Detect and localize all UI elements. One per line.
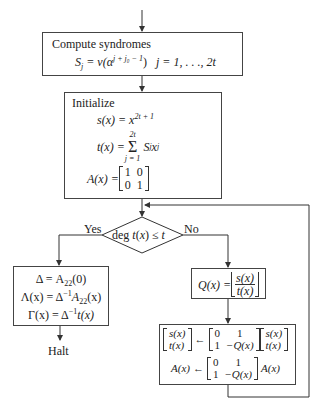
formula-mid: = v(α <box>83 55 113 69</box>
update-a-formula: A(x) ← 0 1 1 −Q(x) A(x) <box>171 357 280 380</box>
result-gamma: Γ(x) = Δ−1t(x) <box>14 309 108 321</box>
update-matrix: 0 1 1 −Q(x) <box>209 328 260 351</box>
compute-heading: Compute syndromes <box>52 38 151 50</box>
quotient-denominator: t(x) <box>237 285 254 297</box>
formula-close: ) <box>143 55 147 69</box>
initialize-box: Initialize s(x) = x2t + 1 t(x) = 2t Σ j … <box>64 92 222 199</box>
vector-cell: t(x) <box>266 340 283 351</box>
lambda-sub: 22 <box>79 297 87 306</box>
st-vector-lhs: s(x) t(x) <box>163 328 192 351</box>
matrix-cell: 0 <box>125 179 131 191</box>
summation: 2t Σ j = 1 <box>125 131 141 163</box>
quotient-lhs: Q(x) = <box>198 279 231 291</box>
update-box: s(x) t(x) ← 0 1 1 −Q(x) s(x) t(x) A <box>159 324 296 385</box>
init-t-lhs: t(x) = <box>97 141 125 153</box>
gamma-lhs: Γ(x) = Δ <box>28 308 69 322</box>
quotient-formula: Q(x) = s(x) t(x) <box>198 272 259 297</box>
sigma-symbol: Σ <box>128 139 137 155</box>
matrix-cell: −Q(x) <box>224 369 252 380</box>
sum-bottom: j = 1 <box>125 155 141 163</box>
delta-lhs: Δ = A <box>36 272 65 286</box>
result-delta: Δ = A22(0) <box>14 273 108 285</box>
floor-bracket: s(x) t(x) <box>231 272 259 297</box>
vector-cell: s(x) <box>266 328 283 339</box>
syndrome-formula: Sj = v(αj + j₀ − 1) j = 1, . . ., 2t <box>75 56 216 68</box>
quotient-fraction: s(x) t(x) <box>235 272 255 297</box>
identity-matrix: 1 0 0 1 <box>119 166 149 191</box>
update-a-rhs: A(x) <box>258 363 280 374</box>
init-t-formula: t(x) = 2t Σ j = 1 Sjxj <box>97 131 159 163</box>
result-lambda: Λ(x) = Δ−1A22(x) <box>14 291 108 303</box>
init-s-lhs: s(x) = x <box>97 113 134 127</box>
vector-cell: t(x) <box>169 340 186 351</box>
initialize-heading: Initialize <box>72 97 115 109</box>
update-a-lhs: A(x) <box>171 363 190 374</box>
assign-arrow-icon: ← <box>192 334 209 345</box>
lambda-exp: −1 <box>63 289 72 298</box>
halt-label: Halt <box>48 345 69 357</box>
lambda-lhs: Λ(x) = Δ <box>21 290 64 304</box>
matrix-cell: 1 <box>215 340 221 351</box>
init-a-lhs: A(x) = <box>87 173 119 185</box>
matrix-cell: 1 <box>235 357 241 368</box>
matrix-cell: 1 <box>137 179 143 191</box>
init-s-formula: s(x) = x2t + 1 <box>97 114 154 126</box>
delta-rhs: (0) <box>72 272 86 286</box>
matrix-cell: 0 <box>137 166 143 178</box>
formula-range: j = 1, . . ., 2t <box>156 55 216 69</box>
assign-arrow-icon: ← <box>190 363 207 374</box>
matrix-cell: 0 <box>215 328 221 339</box>
matrix-cell: −Q(x) <box>226 340 254 351</box>
formula-exp: j + j₀ − 1 <box>113 54 143 63</box>
matrix-cell: 1 <box>237 328 243 339</box>
yes-label: Yes <box>84 223 101 235</box>
st-vector-rhs: s(x) t(x) <box>260 328 289 351</box>
update-a-matrix: 0 1 1 −Q(x) <box>207 357 258 380</box>
no-label: No <box>184 223 199 235</box>
init-s-exp: 2t + 1 <box>134 112 154 121</box>
matrix-cell: 1 <box>213 369 219 380</box>
gamma-rhs: t(x) <box>77 308 94 322</box>
result-box: Δ = A22(0) Λ(x) = Δ−1A22(x) Γ(x) = Δ−1t(… <box>13 266 109 326</box>
matrix-cell: 1 <box>125 166 131 178</box>
lambda-rhs: (x) <box>87 290 101 304</box>
update-st-formula: s(x) t(x) ← 0 1 1 −Q(x) s(x) t(x) <box>163 328 288 351</box>
vector-cell: s(x) <box>169 328 186 339</box>
matrix-cell: 0 <box>213 357 219 368</box>
init-a-formula: A(x) = 1 0 0 1 <box>87 166 149 191</box>
quotient-box: Q(x) = s(x) t(x) <box>191 268 266 299</box>
decision-condition: deg t(x) ≤ t <box>112 229 165 241</box>
compute-syndromes-box: Compute syndromes Sj = v(αj + j₀ − 1) j … <box>42 32 243 76</box>
